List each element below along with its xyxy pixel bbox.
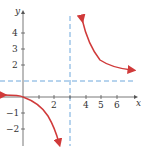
x-tick-label-2: 2 xyxy=(51,100,57,110)
y-tick-label-2: 2 xyxy=(12,60,18,70)
x-tick-label-6: 6 xyxy=(114,100,120,110)
rational-function-graph: 2 4 5 6 4 3 2 −1 −2 y x xyxy=(0,0,141,151)
y-tick-label-neg2: −2 xyxy=(6,124,19,134)
x-tick-label-4: 4 xyxy=(83,100,89,110)
curve-right-branch xyxy=(82,19,132,70)
x-tick-label-5: 5 xyxy=(98,100,104,110)
y-axis-label: y xyxy=(14,6,21,16)
x-axis-label: x xyxy=(136,98,141,108)
y-tick-label-neg1: −1 xyxy=(6,108,19,118)
y-tick-label-3: 3 xyxy=(12,44,18,54)
y-tick-label-4: 4 xyxy=(12,28,18,38)
chart-canvas: 2 4 5 6 4 3 2 −1 −2 y x xyxy=(0,0,141,151)
